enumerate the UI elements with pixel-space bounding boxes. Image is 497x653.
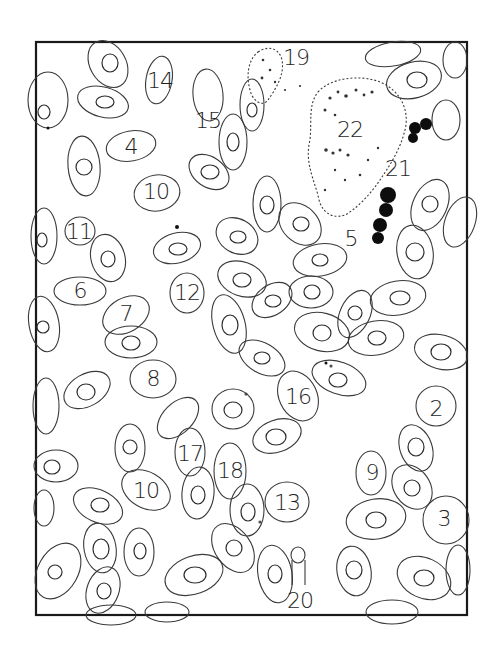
cell-label-22: 22	[337, 117, 363, 142]
cell-label-18: 18	[217, 458, 243, 483]
cell-label-9: 9	[366, 460, 379, 485]
cell-label-13: 13	[274, 490, 300, 515]
figure-frame	[36, 42, 467, 615]
dark-granules	[372, 118, 432, 244]
cell-label-8: 8	[147, 366, 160, 391]
cell-label-2: 2	[430, 396, 443, 421]
cell-label-12: 12	[174, 280, 200, 305]
cell-label-4: 4	[125, 134, 138, 159]
cell-label-10: 10	[143, 179, 169, 204]
figure-labels: 141541011671281922215162171810139320	[66, 45, 451, 613]
cell-label-17: 17	[177, 441, 203, 466]
cell-label-19: 19	[283, 45, 309, 70]
blood-smear-illustration: 141541011671281922215162171810139320	[0, 0, 497, 653]
cell-label-16: 16	[285, 384, 311, 409]
misc-dots	[47, 127, 328, 365]
cell-label-21: 21	[385, 156, 411, 181]
cell-label-20: 20	[287, 588, 313, 613]
cell-label-10: 10	[133, 478, 159, 503]
cell-label-5: 5	[345, 226, 358, 251]
cell-label-15: 15	[195, 108, 221, 133]
cell-label-7: 7	[120, 301, 133, 326]
cell-label-3: 3	[438, 506, 451, 531]
cell-label-6: 6	[74, 278, 87, 303]
cell-label-14: 14	[147, 68, 173, 93]
cell-label-11: 11	[66, 219, 92, 244]
granular-cell-clusters	[248, 48, 432, 244]
